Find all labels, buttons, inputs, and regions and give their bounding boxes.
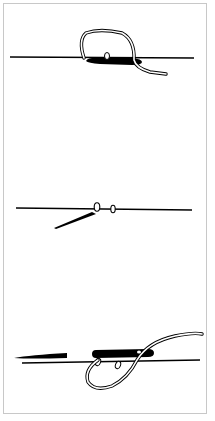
stitch-bead-2 (111, 205, 115, 213)
panel-step-3 (0, 280, 215, 421)
panel-step-1 (0, 0, 215, 140)
stitch-bead-1 (94, 203, 100, 211)
stitch-bead (105, 53, 110, 60)
needle-tip-icon (14, 353, 67, 359)
fabric-line (16, 208, 192, 210)
panel-step-2 (0, 140, 215, 280)
needle-icon (54, 212, 96, 229)
fabric-line (22, 360, 200, 363)
thread-loop (81, 31, 166, 75)
needle-eye (137, 351, 141, 354)
fabric-line (10, 57, 194, 58)
